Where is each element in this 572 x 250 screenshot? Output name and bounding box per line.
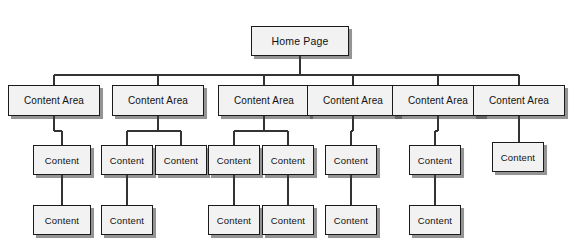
node-label: Content xyxy=(418,215,452,226)
node-label: Content xyxy=(164,155,198,166)
node-label: Content xyxy=(45,155,79,166)
node-label: Content xyxy=(271,215,305,226)
node-a6[interactable]: Content Area xyxy=(473,85,565,116)
node-c6[interactable]: Content xyxy=(492,142,544,172)
node-c5[interactable]: Content xyxy=(409,145,461,175)
node-label: Content xyxy=(418,155,452,166)
node-c3b[interactable]: Content xyxy=(262,145,314,175)
node-d2[interactable]: Content xyxy=(101,205,153,235)
node-d5[interactable]: Content xyxy=(409,205,461,235)
node-label: Content xyxy=(110,155,144,166)
node-c3a[interactable]: Content xyxy=(208,145,260,175)
node-label: Content xyxy=(217,215,251,226)
node-label: Content xyxy=(501,152,535,163)
node-label: Content xyxy=(334,215,368,226)
node-label: Content Area xyxy=(323,95,383,106)
node-a5[interactable]: Content Area xyxy=(392,85,484,116)
node-home-page[interactable]: Home Page xyxy=(251,26,349,56)
node-label: Content Area xyxy=(128,95,188,106)
node-d1[interactable]: Content xyxy=(33,205,91,235)
node-label: Content xyxy=(217,155,251,166)
node-label: Content Area xyxy=(489,95,549,106)
node-a4[interactable]: Content Area xyxy=(307,85,399,116)
node-d3a[interactable]: Content xyxy=(208,205,260,235)
node-label: Content Area xyxy=(234,95,294,106)
node-label: Home Page xyxy=(272,35,329,47)
node-label: Content Area xyxy=(408,95,468,106)
node-c4[interactable]: Content xyxy=(325,145,377,175)
node-a2[interactable]: Content Area xyxy=(112,85,204,116)
node-label: Content Area xyxy=(24,95,84,106)
node-a1[interactable]: Content Area xyxy=(8,85,100,116)
sitemap-diagram-canvas: Home PageContent AreaContent AreaContent… xyxy=(0,0,572,250)
node-c1[interactable]: Content xyxy=(33,145,91,175)
node-c2a[interactable]: Content xyxy=(101,145,153,175)
node-d3b[interactable]: Content xyxy=(262,205,314,235)
node-a3[interactable]: Content Area xyxy=(218,85,310,116)
node-label: Content xyxy=(45,215,79,226)
node-d4[interactable]: Content xyxy=(325,205,377,235)
node-c2b[interactable]: Content xyxy=(155,145,207,175)
node-label: Content xyxy=(110,215,144,226)
node-label: Content xyxy=(271,155,305,166)
node-label: Content xyxy=(334,155,368,166)
